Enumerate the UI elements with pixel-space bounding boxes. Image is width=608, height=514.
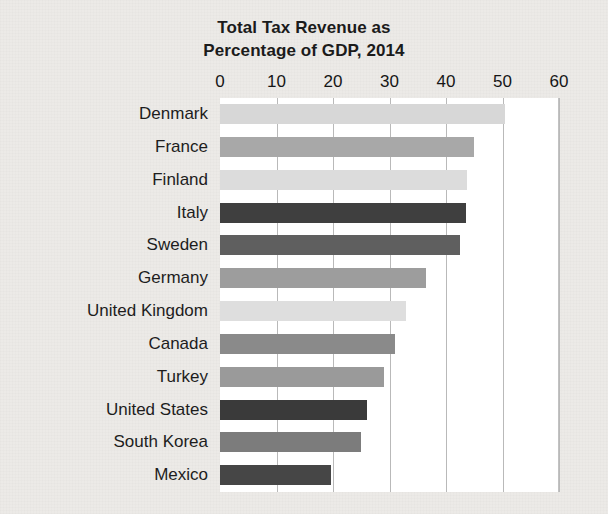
bar-row xyxy=(220,328,559,361)
category-label-united-kingdom: United Kingdom xyxy=(87,301,208,321)
gridline-60 xyxy=(559,98,560,492)
bar-row xyxy=(220,164,559,197)
chart-title: Total Tax Revenue as Percentage of GDP, … xyxy=(0,16,608,62)
category-axis-labels: DenmarkFranceFinlandItalySwedenGermanyUn… xyxy=(0,98,214,492)
bar-united-states[interactable] xyxy=(220,400,367,420)
bar-united-kingdom[interactable] xyxy=(220,301,406,321)
x-tick-label-40: 40 xyxy=(437,72,456,92)
chart-title-line-2: Percentage of GDP, 2014 xyxy=(0,39,608,62)
bar-turkey[interactable] xyxy=(220,367,384,387)
plot-area xyxy=(220,98,559,492)
category-label-united-states: United States xyxy=(106,400,208,420)
x-axis-tick-labels: 0102030405060 xyxy=(220,72,559,94)
category-label-germany: Germany xyxy=(138,268,208,288)
bar-germany[interactable] xyxy=(220,268,426,288)
chart-title-line-1: Total Tax Revenue as xyxy=(0,16,608,39)
bar-row xyxy=(220,394,559,427)
tax-revenue-bar-chart: Total Tax Revenue as Percentage of GDP, … xyxy=(0,0,608,514)
bar-denmark[interactable] xyxy=(220,104,505,124)
bar-row xyxy=(220,98,559,131)
x-tick-label-10: 10 xyxy=(267,72,286,92)
bar-row xyxy=(220,262,559,295)
bar-italy[interactable] xyxy=(220,203,466,223)
category-label-france: France xyxy=(155,137,208,157)
plot-right-border xyxy=(558,98,559,492)
category-label-sweden: Sweden xyxy=(147,235,208,255)
bar-row xyxy=(220,459,559,492)
bar-sweden[interactable] xyxy=(220,235,460,255)
category-label-mexico: Mexico xyxy=(154,465,208,485)
bar-row xyxy=(220,361,559,394)
bar-south-korea[interactable] xyxy=(220,432,361,452)
bar-row xyxy=(220,295,559,328)
category-label-canada: Canada xyxy=(148,334,208,354)
bar-row xyxy=(220,131,559,164)
x-tick-label-60: 60 xyxy=(550,72,569,92)
bar-finland[interactable] xyxy=(220,170,467,190)
bar-rows xyxy=(220,98,559,492)
bar-row xyxy=(220,197,559,230)
x-tick-label-50: 50 xyxy=(493,72,512,92)
category-label-denmark: Denmark xyxy=(139,104,208,124)
x-tick-label-20: 20 xyxy=(324,72,343,92)
x-tick-label-30: 30 xyxy=(380,72,399,92)
bar-france[interactable] xyxy=(220,137,474,157)
bar-mexico[interactable] xyxy=(220,465,331,485)
bar-row xyxy=(220,229,559,262)
bar-canada[interactable] xyxy=(220,334,395,354)
bar-row xyxy=(220,426,559,459)
category-label-turkey: Turkey xyxy=(157,367,208,387)
x-tick-label-0: 0 xyxy=(215,72,224,92)
category-label-south-korea: South Korea xyxy=(113,432,208,452)
category-label-italy: Italy xyxy=(177,203,208,223)
category-label-finland: Finland xyxy=(152,170,208,190)
